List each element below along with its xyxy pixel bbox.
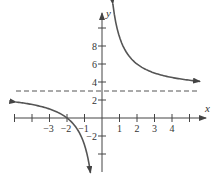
x-tick-label: −2 xyxy=(61,123,72,134)
x-tick-label: 4 xyxy=(170,123,175,134)
y-axis-label: y xyxy=(105,7,111,19)
rational-function-graph: −3−2−11234 −22468 x y xyxy=(0,0,219,178)
y-tick-label: 6 xyxy=(92,59,97,70)
curve-right-branch xyxy=(113,4,200,81)
x-tick-label: 3 xyxy=(152,123,157,134)
x-tick-label: 1 xyxy=(117,123,122,134)
y-tick-label: −2 xyxy=(86,131,97,142)
x-tick-label: −3 xyxy=(43,123,54,134)
y-tick-label: 4 xyxy=(92,77,97,88)
curve-left-branch xyxy=(16,102,90,173)
y-tick-label: 2 xyxy=(92,95,97,106)
x-axis-label: x xyxy=(204,102,210,114)
x-tick-labels: −3−2−11234 xyxy=(43,123,174,134)
y-tick-label: 8 xyxy=(92,41,97,52)
x-tick-label: 2 xyxy=(135,123,140,134)
